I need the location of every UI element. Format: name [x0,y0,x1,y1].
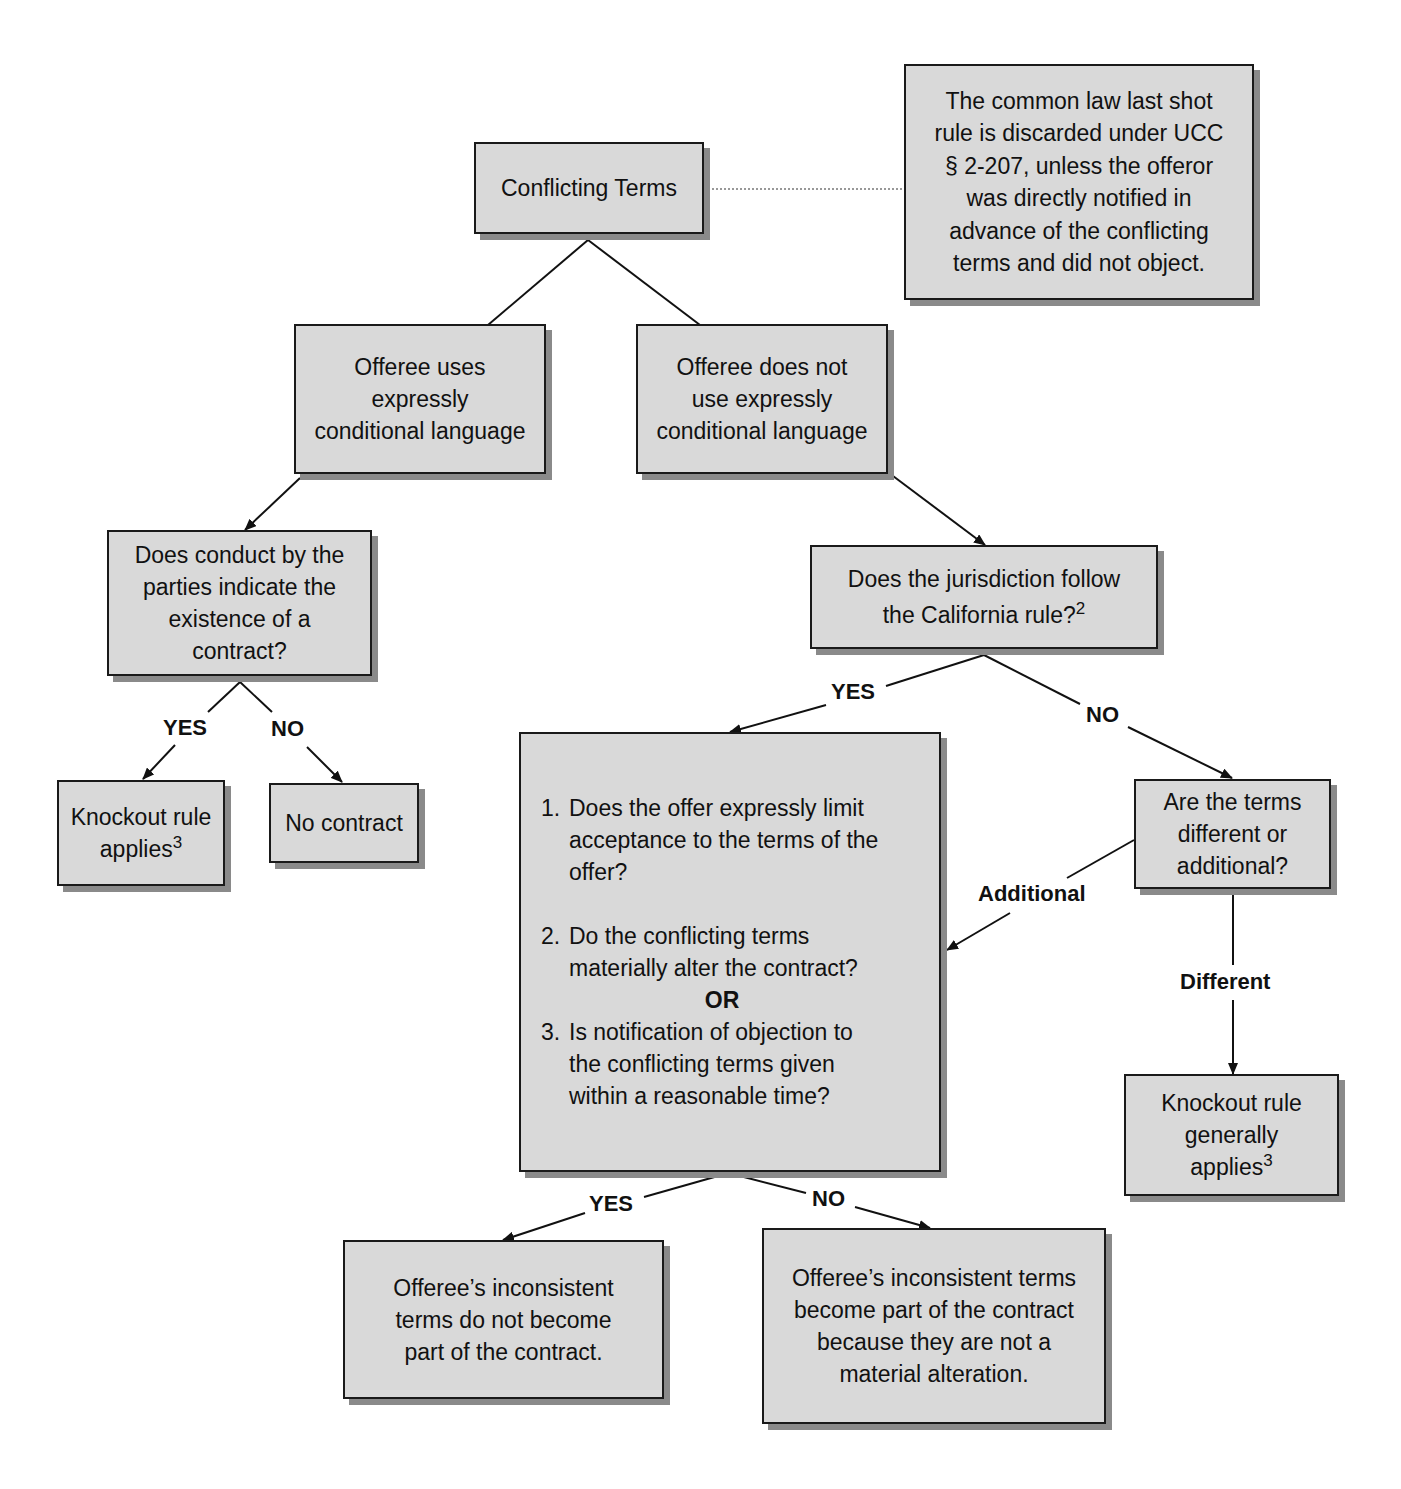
node-knockout-generally: Knockout rule generally applies3 [1124,1074,1339,1196]
node-result-not-part-text: Offeree’s inconsistent terms do not beco… [393,1272,613,1368]
node-california-question: Does the jurisdiction follow the Califor… [810,545,1158,649]
edge-label-california-yes: YES [828,679,878,705]
footnote-marker: 2 [1076,599,1085,618]
edge-label-questions-yes: YES [586,1191,636,1217]
note-last-shot-rule-text: The common law last shot rule is discard… [935,85,1224,280]
edge-label-additional: Additional [975,881,1089,907]
question-item-2: 2. Do the conflicting terms materially a… [541,920,923,984]
question-item-3: 3. Is notification of objection to the c… [541,1016,923,1112]
node-not-conditional: Offeree does not use expressly condition… [636,324,888,474]
node-no-contract: No contract [269,783,419,863]
node-terms-question-text: Are the terms different or additional? [1163,786,1301,882]
node-result-part: Offeree’s inconsistent terms become part… [762,1228,1106,1424]
node-conduct-question: Does conduct by the parties indicate the… [107,530,372,676]
question-item-1: 1. Does the offer expressly limit accept… [541,792,923,888]
questions-list: 1. Does the offer expressly limit accept… [541,792,923,1112]
node-result-not-part: Offeree’s inconsistent terms do not beco… [343,1240,664,1399]
node-terms-question: Are the terms different or additional? [1134,779,1331,889]
node-questions: 1. Does the offer expressly limit accept… [519,732,941,1172]
node-conflicting-terms-text: Conflicting Terms [501,172,677,204]
node-knockout-applies-text: Knockout rule applies3 [71,801,212,865]
footnote-marker: 3 [1263,1151,1272,1170]
node-not-conditional-text: Offeree does not use expressly condition… [656,351,867,447]
node-result-part-text: Offeree’s inconsistent terms become part… [792,1262,1076,1390]
edge-label-conduct-no: NO [268,716,307,742]
node-uses-conditional: Offeree uses expressly conditional langu… [294,324,546,474]
node-no-contract-text: No contract [285,807,403,839]
edge-label-different: Different [1177,969,1273,995]
edge-label-conduct-yes: YES [160,715,210,741]
footnote-marker: 3 [173,833,182,852]
edge-label-california-no: NO [1083,702,1122,728]
flowchart-canvas: Conflicting Terms The common law last sh… [0,0,1401,1489]
note-last-shot-rule: The common law last shot rule is discard… [904,64,1254,300]
node-uses-conditional-text: Offeree uses expressly conditional langu… [314,351,525,447]
or-label: OR [531,984,913,1016]
node-conduct-question-text: Does conduct by the parties indicate the… [135,539,345,667]
node-california-question-text: Does the jurisdiction follow the Califor… [848,561,1120,633]
node-conflicting-terms: Conflicting Terms [474,142,704,234]
node-knockout-applies: Knockout rule applies3 [57,780,225,886]
edge-label-questions-no: NO [809,1186,848,1212]
node-knockout-generally-text: Knockout rule generally applies3 [1161,1087,1302,1183]
